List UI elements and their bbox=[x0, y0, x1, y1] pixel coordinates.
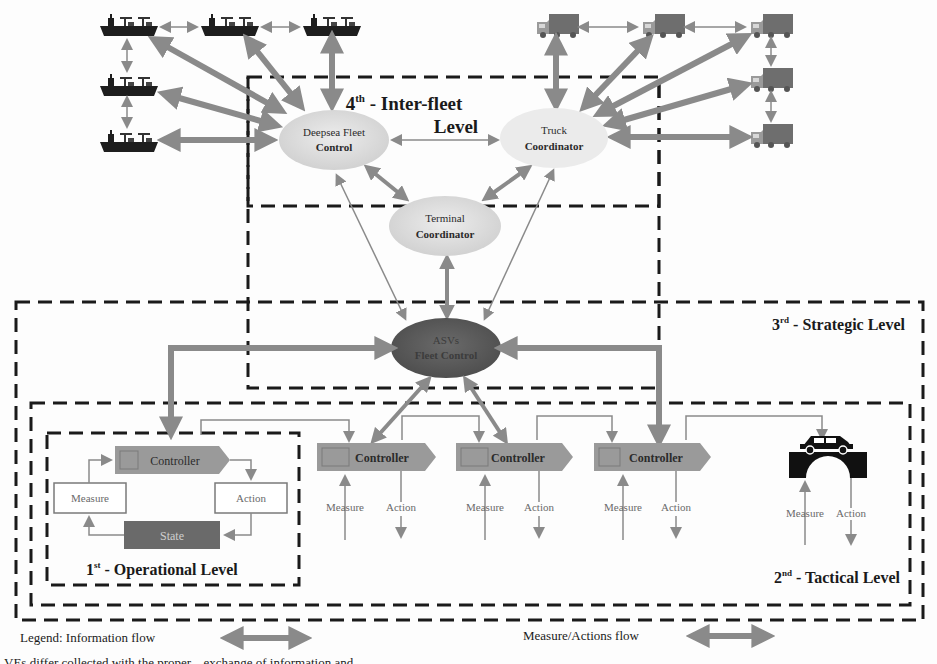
tactical-controller-2: Controller Measure Action bbox=[456, 443, 573, 540]
ship-icon bbox=[100, 14, 158, 36]
svg-text:Action: Action bbox=[661, 501, 691, 513]
svg-text:Controller: Controller bbox=[629, 451, 683, 465]
truck-icon bbox=[537, 14, 579, 38]
svg-text:Action: Action bbox=[236, 492, 266, 504]
truck-icon bbox=[751, 14, 793, 38]
inter-fleet-level-label: 4th - Inter-fleet bbox=[346, 92, 463, 114]
operational-action-box: Action bbox=[215, 483, 287, 513]
svg-text:Measure: Measure bbox=[71, 492, 109, 504]
operational-state-box: State bbox=[124, 521, 220, 549]
legend-measure-actions-label: Measure/Actions flow bbox=[523, 628, 640, 643]
operational-level-label: 1st - Operational Level bbox=[86, 560, 238, 579]
truck-label-1: Truck bbox=[541, 124, 567, 136]
svg-text:Action: Action bbox=[386, 501, 416, 513]
operational-measure-box: Measure bbox=[54, 483, 126, 513]
asv-label-1: ASVs bbox=[433, 334, 459, 346]
ship-icon bbox=[100, 130, 158, 152]
svg-text:Controller: Controller bbox=[491, 451, 545, 465]
clipped-footer-text: VEs differ collected with the proper... … bbox=[0, 654, 937, 664]
inter-fleet-level-label-2: Level bbox=[434, 116, 478, 137]
asv-label-2: Fleet Control bbox=[415, 349, 477, 361]
ship-icon bbox=[201, 14, 259, 36]
truck-coordinator-node: Truck Coordinator bbox=[500, 108, 608, 168]
vehicle-action-label: Action bbox=[836, 507, 866, 519]
deepsea-label-2: Control bbox=[316, 141, 352, 153]
truck-icon bbox=[751, 68, 793, 92]
inter-fleet-control-diagram: Deepsea Fleet Control Truck Coordinator … bbox=[0, 0, 937, 664]
svg-text:Measure: Measure bbox=[604, 501, 642, 513]
truck-label-2: Coordinator bbox=[525, 140, 584, 152]
svg-text:Measure: Measure bbox=[326, 501, 364, 513]
svg-text:Action: Action bbox=[524, 501, 554, 513]
terminal-label-2: Coordinator bbox=[416, 228, 475, 240]
deepsea-fleet-control-node: Deepsea Fleet Control bbox=[279, 110, 389, 170]
deepsea-label-1: Deepsea Fleet bbox=[303, 126, 365, 138]
svg-text:State: State bbox=[160, 529, 184, 543]
vehicle-measure-label: Measure bbox=[786, 507, 824, 519]
ship-icon bbox=[303, 14, 361, 36]
legend-information-flow-label: Legend: Information flow bbox=[20, 630, 156, 645]
terminal-coordinator-node: Terminal Coordinator bbox=[389, 196, 501, 256]
operational-controller: Controller bbox=[115, 446, 230, 474]
car-on-bridge-icon bbox=[789, 436, 867, 478]
tactical-controller-1: Controller Measure Action bbox=[317, 443, 436, 540]
truck-icon bbox=[643, 14, 685, 38]
truck-icon bbox=[751, 124, 793, 148]
asv-fleet-control-node: ASVs Fleet Control bbox=[391, 318, 501, 378]
tactical-level-label: 2nd - Tactical Level bbox=[774, 568, 901, 586]
operational-controller-label: Controller bbox=[150, 454, 199, 468]
svg-text:Controller: Controller bbox=[355, 451, 409, 465]
strategic-level-label: 3rd - Strategic Level bbox=[772, 315, 906, 334]
tactical-controller-3: Controller Measure Action bbox=[594, 443, 711, 540]
svg-text:Measure: Measure bbox=[466, 501, 504, 513]
terminal-label-1: Terminal bbox=[425, 212, 465, 224]
asv-tactical-link-3 bbox=[502, 348, 659, 440]
ship-icon bbox=[100, 74, 158, 96]
